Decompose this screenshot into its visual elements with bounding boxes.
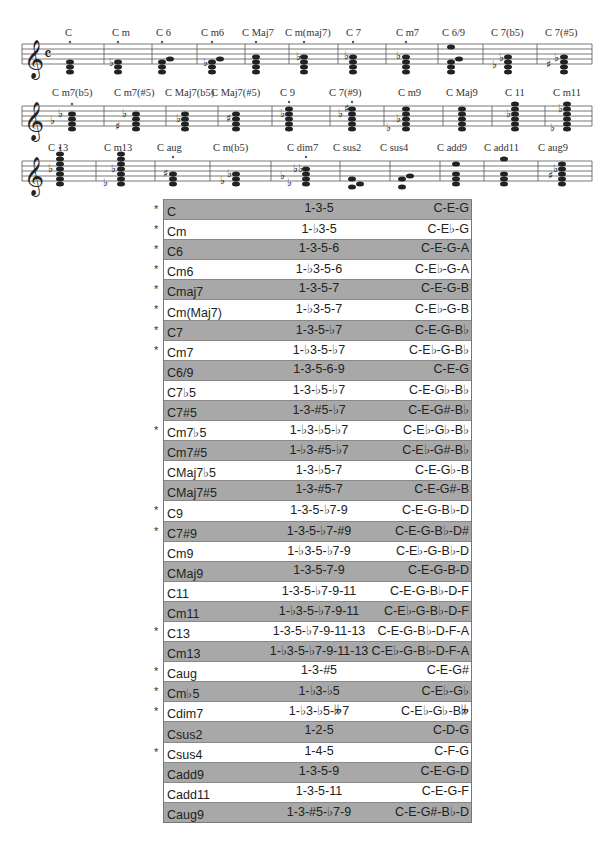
chord-name: C7	[167, 326, 183, 340]
chord-name: CMaj7#5	[167, 486, 217, 500]
chord-label: C 13	[48, 142, 68, 153]
recommended-star: *	[154, 504, 158, 516]
chord-formula: 1-3-5-6	[244, 241, 394, 255]
chord-notes: C-E♭-G-B♭	[409, 342, 469, 357]
staff-lines-1: 𝄞 𝄴 ♭♭♭ ♭♭♭♭ ♯♭	[0, 0, 614, 80]
svg-text:♭: ♭	[58, 107, 63, 120]
chord-formula: 1-♭3-♭5	[244, 683, 394, 698]
chord-label: C m6	[201, 27, 224, 38]
svg-text:♭: ♭	[506, 107, 511, 120]
chord-notes: C-E-G-B♭-D-F-A	[378, 623, 469, 638]
chord-formula: 1-♭3-5	[244, 221, 394, 236]
recommended-star: *	[154, 525, 158, 537]
chord-name: C13	[167, 627, 190, 641]
chord-label: C 11	[505, 87, 525, 98]
chord-notes: C-E♭-G-A	[415, 261, 469, 276]
chord-name: Cm9	[167, 547, 193, 561]
chord-notes: C-E♭-G	[428, 221, 469, 236]
chord-label: C aug	[157, 142, 182, 153]
chord-label: C add11	[484, 142, 519, 153]
chord-notes: C-E-G♭-B♭	[409, 382, 469, 397]
chord-formula: 1-2-5	[244, 723, 394, 737]
svg-text:♭: ♭	[203, 56, 208, 69]
chord-name: C9	[167, 507, 183, 521]
chord-label: C 7(#5)	[545, 27, 577, 38]
chord-name: Cm7♭5	[167, 425, 206, 440]
chord-label: C 6/9	[442, 27, 465, 38]
chord-notes: C-E-G-B♭-D-F	[390, 583, 469, 598]
svg-text:♭: ♭	[220, 174, 225, 187]
table-row: * Cm(Maj7) 1-♭3-5-7 C-E♭-G-B	[164, 299, 471, 319]
chord-label: C	[65, 27, 72, 38]
chord-formula: 1-3-5-♭7-9-11	[244, 583, 394, 598]
chord-notes: C-D-G	[433, 723, 469, 737]
chord-name: Cm(Maj7)	[167, 306, 222, 320]
recommended-star: *	[154, 263, 158, 275]
chord-formula: 1-♭3-5-♭7	[244, 342, 394, 357]
table-row: Csus2 1-2-5 C-D-G	[164, 721, 471, 741]
chord-formula: 1-♭3-5-♭7-9-11	[244, 603, 394, 618]
chord-name: C	[167, 205, 176, 219]
chord-label: C sus4	[380, 142, 408, 153]
table-row: * Cm7 1-♭3-5-♭7 C-E♭-G-B♭	[164, 340, 471, 360]
chord-label: C m13	[104, 142, 132, 153]
svg-text:♭: ♭	[338, 107, 343, 120]
table-row: * C13 1-3-5-♭7-9-11-13 C-E-G-B♭-D-F-A	[164, 621, 471, 641]
chord-formula: 1-♭3-#5-♭7	[244, 442, 394, 457]
chord-formula: 1-♭3-5-6	[244, 261, 394, 276]
table-row: Cm9 1-♭3-5-♭7-9 C-E♭-G-B♭-D	[164, 541, 471, 561]
chord-formula: 1-3-5-♭7-9-11-13	[244, 623, 394, 638]
chord-name: Cm6	[167, 265, 193, 279]
table-row: * Csus4 1-4-5 C-F-G	[164, 742, 471, 762]
chord-notes: C-E♭-G♭-B𝄫	[401, 703, 469, 719]
chord-notes: C-E-G-B	[421, 281, 469, 295]
chord-name: Csus4	[167, 748, 202, 762]
table-row: CMaj7#5 1-3-#5-7 C-E-G#-B	[164, 480, 471, 500]
chord-name: Cm7#5	[167, 446, 207, 460]
table-row: C7♭5 1-3-♭5-♭7 C-E-G♭-B♭	[164, 380, 471, 400]
chord-notes: C-E♭-G♭	[422, 683, 469, 698]
chord-formula: 1-3-5-♭7	[244, 322, 394, 337]
chord-label: C Maj9	[446, 87, 478, 98]
chord-label: C m(maj7)	[285, 27, 331, 38]
table-row: Cm13 1-♭3-5-♭7-9-11-13 C-E♭-G-B♭-D-F-A	[164, 641, 471, 661]
svg-text:♭: ♭	[296, 50, 301, 63]
chord-name: Cm13	[167, 647, 200, 661]
chord-notes: C-E-G	[434, 362, 469, 376]
chord-label: C sus2	[333, 142, 361, 153]
chord-name: Cadd11	[167, 788, 210, 802]
chord-formula: 1-3-♭5-7	[244, 462, 394, 477]
chord-name: CMaj7♭5	[167, 465, 216, 480]
recommended-star: *	[154, 324, 158, 336]
chord-notes: C-E-G♭-B	[415, 462, 469, 477]
table-row: * Cdim7 1-♭3-♭5-𝄫7 C-E♭-G♭-B𝄫	[164, 701, 471, 721]
chord-name: Cadd9	[167, 768, 204, 782]
svg-text:♭: ♭	[176, 112, 181, 125]
chord-notes: C-E-G-B-D	[408, 563, 469, 577]
chord-label: C Maj7(b5)	[165, 87, 214, 98]
table-row: CMaj7♭5 1-3-♭5-7 C-E-G♭-B	[164, 460, 471, 480]
svg-text:♭: ♭	[111, 162, 116, 175]
table-row: * Caug 1-3-#5 C-E-G#	[164, 661, 471, 681]
chord-label: C m7(#5)	[114, 87, 155, 98]
chord-formula: 1-4-5	[244, 744, 394, 758]
chord-name: Csus2	[167, 728, 202, 742]
staff-row-3: 𝄞 ♭ ♭♭ ♯ ♭♭ ♭♭♭♭ ♯♭ C 13 C m13 C aug C m…	[0, 140, 614, 200]
chord-notes: C-E-G-B♭-D	[402, 502, 469, 517]
chord-notes: C-E-G-B♭-D#	[395, 523, 469, 538]
treble-clef-icon: 𝄞	[24, 100, 44, 142]
chord-name: C6/9	[167, 366, 193, 380]
chord-formula: 1-3-5-7	[244, 281, 394, 295]
chord-name: C7#9	[167, 527, 197, 541]
svg-text:♭: ♭	[280, 169, 285, 182]
chord-label: C 9	[280, 87, 295, 98]
chord-label: C 7(#9)	[329, 87, 361, 98]
treble-clef-icon: 𝄞	[24, 38, 44, 80]
recommended-star: *	[154, 705, 158, 717]
table-row: Cm11 1-♭3-5-♭7-9-11 C-E♭-G-B♭-D-F	[164, 601, 471, 621]
chord-notes: C-E-G	[434, 201, 469, 215]
svg-text:♭: ♭	[227, 167, 232, 180]
svg-text:♭: ♭	[499, 51, 504, 64]
chord-formula: 1-3-#5-♭7	[244, 402, 394, 417]
recommended-star: *	[154, 746, 158, 758]
